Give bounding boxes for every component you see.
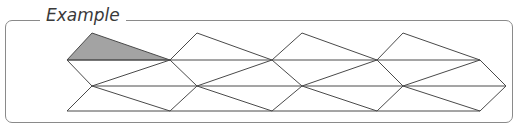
shaded-triangle — [67, 33, 170, 60]
diagram-lines — [67, 33, 506, 111]
triangle-tessellation-diagram — [0, 0, 521, 128]
